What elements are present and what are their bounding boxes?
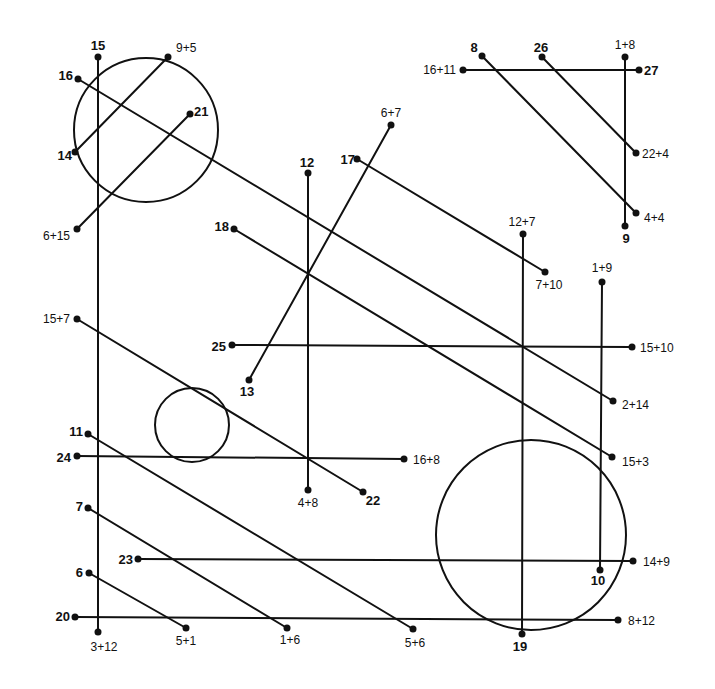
line-segment bbox=[138, 559, 633, 561]
math-problem-label: 4+4 bbox=[644, 211, 665, 225]
dot-point bbox=[74, 453, 81, 460]
dot-point bbox=[599, 279, 606, 286]
line-segment bbox=[232, 345, 632, 347]
dot-point bbox=[183, 625, 190, 632]
line-segment bbox=[89, 573, 186, 628]
answer-number-label: 8 bbox=[470, 40, 477, 55]
dot-point bbox=[609, 454, 616, 461]
answer-number-label: 13 bbox=[240, 384, 254, 399]
answer-number-label: 18 bbox=[215, 219, 229, 234]
answer-number-label: 11 bbox=[69, 424, 83, 439]
answer-number-label: 26 bbox=[534, 40, 548, 55]
dot-point bbox=[622, 54, 629, 61]
circles-layer bbox=[74, 58, 626, 630]
dot-point bbox=[74, 316, 81, 323]
line-segment bbox=[249, 125, 391, 380]
math-problem-label: 6+15 bbox=[43, 229, 70, 243]
connect-the-lines-diagram: 159+51621146+158261+816+112722+44+496+71… bbox=[0, 0, 715, 689]
dot-point bbox=[460, 67, 467, 74]
dot-point bbox=[284, 625, 291, 632]
math-problem-label: 12+7 bbox=[508, 215, 535, 229]
math-problem-label: 5+6 bbox=[405, 636, 426, 650]
answer-number-label: 23 bbox=[119, 552, 133, 567]
dot-point bbox=[520, 231, 527, 238]
math-problem-label: 1+8 bbox=[615, 38, 636, 52]
math-problem-label: 14+9 bbox=[643, 555, 670, 569]
line-segment bbox=[234, 229, 612, 457]
answer-number-label: 19 bbox=[513, 639, 527, 654]
answer-number-label: 20 bbox=[56, 609, 70, 624]
dot-point bbox=[95, 54, 102, 61]
answer-number-label: 25 bbox=[212, 339, 226, 354]
math-problem-label: 5+1 bbox=[176, 634, 197, 648]
dot-point bbox=[95, 629, 102, 636]
segments-layer bbox=[75, 56, 639, 634]
answer-number-label: 17 bbox=[341, 152, 355, 167]
dot-point bbox=[72, 149, 79, 156]
circle-small-middle bbox=[155, 388, 229, 462]
math-problem-label: 2+14 bbox=[622, 398, 649, 412]
dot-point bbox=[85, 505, 92, 512]
dot-point bbox=[305, 170, 312, 177]
math-problem-label: 6+7 bbox=[381, 106, 402, 120]
answer-number-label: 7 bbox=[76, 499, 83, 514]
line-segment bbox=[78, 79, 613, 401]
line-segment bbox=[482, 56, 636, 213]
dot-point bbox=[401, 456, 408, 463]
dot-point bbox=[542, 269, 549, 276]
answer-number-label: 16 bbox=[59, 68, 73, 83]
math-problem-label: 9+5 bbox=[176, 41, 197, 55]
answer-number-label: 6 bbox=[76, 565, 83, 580]
dot-point bbox=[629, 344, 636, 351]
answer-number-label: 9 bbox=[622, 231, 629, 246]
dot-point bbox=[615, 617, 622, 624]
dot-point bbox=[135, 556, 142, 563]
math-problem-label: 15+7 bbox=[43, 312, 70, 326]
math-problem-label: 16+11 bbox=[423, 63, 456, 77]
dot-point bbox=[519, 631, 526, 638]
dot-point bbox=[633, 150, 640, 157]
dot-point bbox=[72, 614, 79, 621]
dot-point bbox=[86, 570, 93, 577]
dot-point bbox=[610, 398, 617, 405]
math-problem-label: 4+8 bbox=[298, 496, 319, 510]
dot-point bbox=[305, 487, 312, 494]
answer-number-label: 27 bbox=[644, 63, 658, 78]
dot-point bbox=[231, 226, 238, 233]
dot-point bbox=[85, 431, 92, 438]
answer-number-label: 22 bbox=[366, 493, 380, 508]
math-problem-label: 7+10 bbox=[535, 278, 562, 292]
line-segment bbox=[600, 282, 602, 570]
math-problem-label: 15+10 bbox=[640, 341, 674, 355]
math-problem-label: 16+8 bbox=[413, 453, 440, 467]
answer-number-label: 21 bbox=[194, 104, 208, 119]
answer-number-label: 12 bbox=[300, 155, 314, 170]
math-problem-label: 3+12 bbox=[90, 640, 117, 654]
math-problem-label: 15+3 bbox=[622, 455, 649, 469]
dot-point bbox=[165, 54, 172, 61]
dot-point bbox=[410, 626, 417, 633]
line-segment bbox=[522, 234, 523, 634]
line-segment bbox=[75, 617, 618, 620]
answer-number-label: 10 bbox=[591, 573, 605, 588]
answer-number-label: 15 bbox=[91, 38, 105, 53]
puzzle-canvas: 159+51621146+158261+816+112722+44+496+71… bbox=[0, 0, 715, 689]
dot-point bbox=[246, 377, 253, 384]
line-segment bbox=[542, 57, 636, 153]
dot-point bbox=[187, 111, 194, 118]
line-segment bbox=[88, 508, 287, 628]
dot-point bbox=[229, 342, 236, 349]
math-problem-label: 22+4 bbox=[642, 147, 669, 161]
dot-point bbox=[479, 53, 486, 60]
circle-large-bottom-right bbox=[436, 440, 626, 630]
dot-point bbox=[388, 122, 395, 129]
dot-point bbox=[75, 76, 82, 83]
answer-number-label: 24 bbox=[57, 450, 72, 465]
answer-number-label: 14 bbox=[58, 148, 73, 163]
math-problem-label: 8+12 bbox=[628, 614, 655, 628]
dot-point bbox=[74, 226, 81, 233]
math-problem-label: 1+9 bbox=[592, 261, 613, 275]
dot-point bbox=[622, 223, 629, 230]
dot-point bbox=[636, 67, 643, 74]
math-problem-label: 1+6 bbox=[280, 633, 301, 647]
